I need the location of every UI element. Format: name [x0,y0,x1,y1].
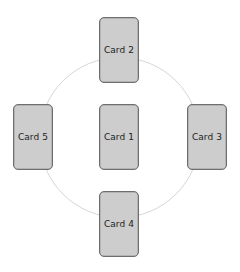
card-label: Card 3 [192,132,222,142]
card-2[interactable]: Card 2 [99,17,139,83]
card-label: Card 1 [104,132,134,142]
card-label: Card 5 [18,132,48,142]
card-label: Card 4 [104,219,134,229]
card-1[interactable]: Card 1 [99,104,139,170]
card-4[interactable]: Card 4 [99,191,139,257]
card-5[interactable]: Card 5 [13,104,53,170]
card-3[interactable]: Card 3 [187,104,227,170]
card-label: Card 2 [104,45,134,55]
